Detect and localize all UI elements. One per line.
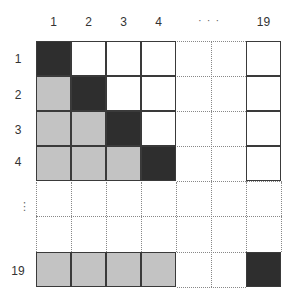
cell-upper-1-2 bbox=[71, 41, 106, 76]
cell-lower-2-1 bbox=[36, 76, 71, 111]
cell-upper-4-19 bbox=[246, 146, 281, 181]
cell-diagonal-1-1 bbox=[36, 41, 71, 76]
cell-upper-3-4 bbox=[141, 111, 176, 146]
column-ellipsis: · · · bbox=[198, 14, 220, 26]
cell-lower-19-2 bbox=[71, 252, 106, 287]
dotted-line bbox=[246, 182, 247, 252]
cell-diagonal-3-3 bbox=[106, 111, 141, 146]
cell-lower-4-3 bbox=[106, 146, 141, 181]
dotted-line bbox=[36, 182, 37, 252]
column-label-2: 2 bbox=[71, 16, 106, 28]
dotted-line bbox=[71, 182, 72, 252]
column-label-3: 3 bbox=[106, 16, 141, 28]
cell-diagonal-2-2 bbox=[71, 76, 106, 111]
lower-triangular-matrix-diagram: 1 2 3 4 · · · 19 1 2 3 4 ⋮ 19 bbox=[0, 0, 298, 308]
dotted-line bbox=[176, 182, 177, 252]
column-label-19: 19 bbox=[246, 16, 281, 28]
dotted-line bbox=[246, 181, 282, 182]
cell-diagonal-4-4 bbox=[141, 146, 176, 181]
cell-upper-2-19 bbox=[246, 76, 281, 111]
cell-upper-1-19 bbox=[246, 41, 281, 76]
cell-lower-4-1 bbox=[36, 146, 71, 181]
row-label-3: 3 bbox=[4, 124, 32, 136]
cell-lower-4-2 bbox=[71, 146, 106, 181]
row-ellipsis: ⋮ bbox=[19, 203, 31, 209]
cell-diagonal-19-19 bbox=[246, 252, 281, 287]
dotted-line bbox=[141, 182, 142, 252]
cell-lower-19-1 bbox=[36, 252, 71, 287]
dotted-line bbox=[281, 182, 282, 252]
row-label-19: 19 bbox=[4, 265, 32, 277]
dotted-line bbox=[177, 252, 246, 253]
dotted-line bbox=[211, 41, 212, 287]
cell-upper-3-19 bbox=[246, 111, 281, 146]
column-label-1: 1 bbox=[36, 16, 71, 28]
column-label-4: 4 bbox=[141, 16, 176, 28]
cell-upper-2-4 bbox=[141, 76, 176, 111]
cell-upper-2-3 bbox=[106, 76, 141, 111]
row-label-1: 1 bbox=[4, 53, 32, 65]
row-label-4: 4 bbox=[4, 156, 32, 168]
cell-lower-3-1 bbox=[36, 111, 71, 146]
cell-lower-19-3 bbox=[106, 252, 141, 287]
dotted-line bbox=[106, 182, 107, 252]
cell-lower-19-4 bbox=[141, 252, 176, 287]
row-label-2: 2 bbox=[4, 89, 32, 101]
cell-upper-1-4 bbox=[141, 41, 176, 76]
dotted-line bbox=[177, 287, 246, 288]
cell-upper-1-3 bbox=[106, 41, 141, 76]
cell-lower-3-2 bbox=[71, 111, 106, 146]
